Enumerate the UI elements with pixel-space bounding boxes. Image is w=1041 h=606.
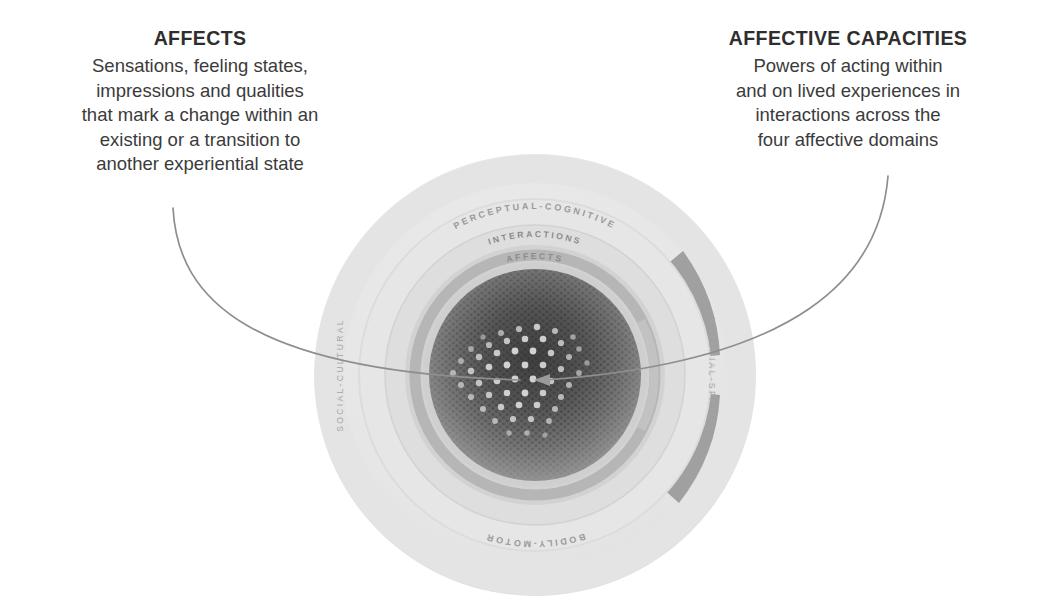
callout-capacities-line-4: four affective domains [668, 128, 1028, 153]
callout-affects-line-4: existing or a transition to [14, 128, 386, 153]
callout-affects-line-1: Sensations, feeling states, [14, 54, 386, 79]
callout-affects-title: AFFECTS [14, 26, 386, 52]
callout-affective-capacities: AFFECTIVE CAPACITIES Powers of acting wi… [668, 26, 1028, 152]
callout-capacities-title: AFFECTIVE CAPACITIES [668, 26, 1028, 52]
ring-label-social-cultural: SOCIAL-CULTURAL [335, 318, 345, 432]
callout-capacities-line-1: Powers of acting within [668, 54, 1028, 79]
affective-domains-diagram: PERCEPTUAL-COGNITIVE INTERACTIONS AFFECT… [311, 151, 759, 599]
ring-label-material-spatial: MATERIAL-SPATIAL [707, 317, 717, 433]
callout-capacities-line-2: and on lived experiences in [668, 79, 1028, 104]
callout-capacities-line-3: interactions across the [668, 103, 1028, 128]
callout-affects-line-2: impressions and qualities [14, 79, 386, 104]
callout-capacities-body: Powers of acting within and on lived exp… [668, 54, 1028, 152]
callout-affects-line-3: that mark a change within an [14, 103, 386, 128]
core-hex-dot-grid [429, 269, 641, 481]
